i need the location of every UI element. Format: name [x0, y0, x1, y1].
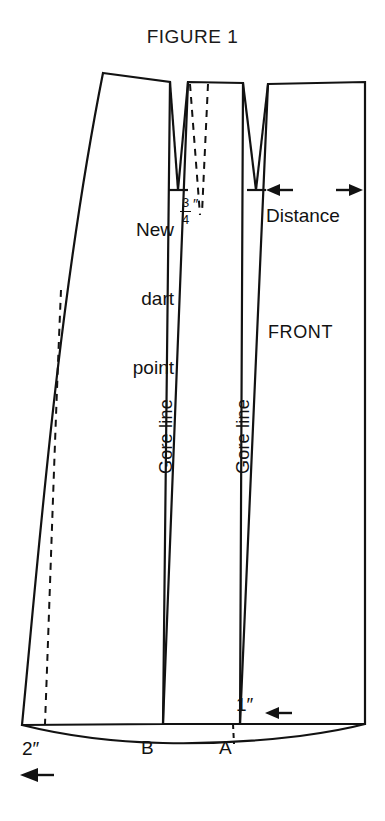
- distance-arrow-left: [266, 184, 293, 196]
- new-dart-point-line-2: dart: [96, 287, 174, 310]
- hem-right-measure-label: 1″: [236, 694, 253, 716]
- point-a-label: A: [219, 737, 232, 759]
- gore-line-label-2: Gore line: [233, 399, 254, 474]
- distance-arrow-right: [336, 184, 363, 196]
- fraction-numerator: 3: [181, 196, 190, 211]
- new-dart-point-line-3: point: [96, 356, 174, 379]
- left-panel-dashed-seam: [45, 290, 61, 724]
- original-dart-leg-dashed-right: [202, 84, 208, 213]
- distance-label: Distance: [266, 205, 340, 227]
- dart-two-left-leg: [243, 83, 256, 190]
- new-dart-point-label: New dart point: [96, 172, 174, 425]
- point-b-label: B: [141, 737, 154, 759]
- fraction-denominator: 4: [181, 212, 190, 227]
- hem-left-measure-label: 2″: [22, 738, 39, 760]
- new-dart-point-line-1: New: [96, 218, 174, 241]
- hem-curve: [22, 724, 365, 743]
- figure-container: FIGURE 1: [0, 0, 385, 821]
- front-label: FRONT: [268, 322, 333, 343]
- two-inch-arrow-left: [20, 768, 54, 782]
- dart-depth-fraction-label: 3 4 ″: [180, 196, 198, 226]
- gore-line-label-1: Gore line: [156, 399, 177, 474]
- fraction-unit: ″: [193, 196, 198, 211]
- right-panel-outline: [240, 82, 365, 724]
- one-inch-arrow-left: [265, 707, 292, 719]
- pattern-drawing: [0, 0, 385, 821]
- fraction-stack: 3 4: [180, 196, 191, 226]
